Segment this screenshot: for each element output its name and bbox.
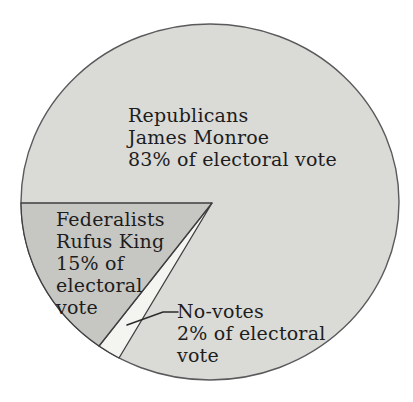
federalists-candidate-text: Rufus King [56,230,165,252]
republicans-label: Republicans James Monroe 83% of electora… [128,104,337,170]
novotes-label: No-votes 2% of electoral vote [177,300,325,366]
federalists-party-text: Federalists [56,208,165,230]
republicans-party-text: Republicans [128,104,337,126]
novotes-party-text: No-votes [177,300,325,322]
federalists-percent-text: 15% of [56,252,165,274]
novotes-percent-text: 2% of electoral [177,322,325,344]
federalists-percent-text-3: vote [56,296,165,318]
federalists-label: Federalists Rufus King 15% of electoral … [56,208,165,318]
republicans-candidate-text: James Monroe [128,126,337,148]
republicans-percent-text: 83% of electoral vote [128,148,337,170]
federalists-percent-text-2: electoral [56,274,165,296]
novotes-percent-text-2: vote [177,344,325,366]
pie-chart-figure: Republicans James Monroe 83% of electora… [0,0,413,402]
